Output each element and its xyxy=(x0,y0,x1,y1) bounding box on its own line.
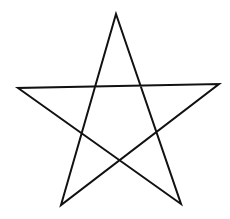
pentagram-figure xyxy=(0,0,230,219)
diagram-canvas xyxy=(0,0,230,219)
star-outline xyxy=(18,14,219,205)
